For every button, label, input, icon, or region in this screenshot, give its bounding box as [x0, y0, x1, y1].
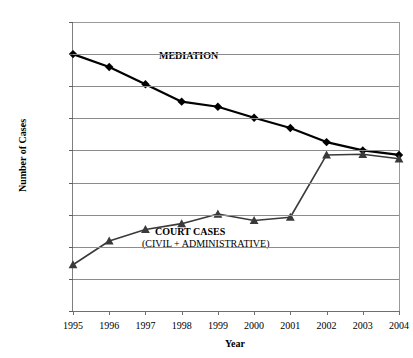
gridline	[73, 22, 399, 23]
x-tick-mark	[109, 311, 110, 315]
data-point-marker	[105, 63, 113, 71]
data-point-marker	[141, 80, 149, 88]
data-point-marker	[286, 124, 294, 132]
gridline	[73, 150, 399, 151]
series-label-mediation: MEDIATION	[159, 50, 218, 62]
gridline	[73, 215, 399, 216]
x-tick-mark	[218, 311, 219, 315]
gridline	[73, 183, 399, 184]
x-tick-mark	[399, 311, 400, 315]
series-line-mediation	[73, 54, 399, 155]
y-tick-mark	[69, 215, 73, 216]
plot-area: MEDIATION COURT CASES (CIVIL + ADMINISTR…	[72, 22, 400, 311]
x-tick-mark	[182, 311, 183, 315]
y-tick-mark	[69, 86, 73, 87]
x-tick-label: 2004	[377, 320, 413, 331]
y-tick-mark	[69, 54, 73, 55]
x-tick-mark	[327, 311, 328, 315]
x-axis-title: Year	[72, 338, 398, 349]
series-layer	[73, 22, 399, 311]
y-tick-mark	[69, 279, 73, 280]
x-tick-mark	[363, 311, 364, 315]
data-point-marker	[213, 210, 222, 218]
x-tick-mark	[73, 311, 74, 315]
data-point-marker	[69, 260, 78, 268]
gridline	[73, 311, 399, 312]
gridline	[73, 86, 399, 87]
y-tick-mark	[69, 183, 73, 184]
y-tick-mark	[69, 247, 73, 248]
y-tick-mark	[69, 118, 73, 119]
y-tick-mark	[69, 22, 73, 23]
gridline	[73, 118, 399, 119]
gridline	[73, 279, 399, 280]
series-sublabel-court-cases: (CIVIL + ADMINISTRATIVE)	[142, 238, 269, 250]
x-tick-mark	[290, 311, 291, 315]
data-point-marker	[322, 138, 330, 146]
gridline	[73, 54, 399, 55]
x-tick-mark	[145, 311, 146, 315]
chart-container: Number of Cases MEDIATION COURT CASES (C…	[0, 0, 413, 358]
y-axis-title: Number of Cases	[17, 76, 28, 236]
data-point-marker	[214, 103, 222, 111]
x-tick-mark	[254, 311, 255, 315]
gridline	[73, 247, 399, 248]
series-label-court-cases: COURT CASES	[155, 226, 225, 238]
data-point-marker	[177, 97, 185, 105]
y-tick-mark	[69, 150, 73, 151]
